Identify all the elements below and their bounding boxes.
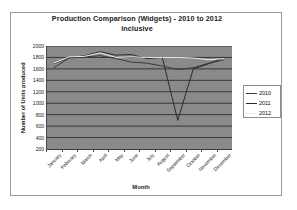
chart-title-line-1: Production Comparison (Widgets) - 2010 t… xyxy=(28,14,246,24)
legend-label: 2011 xyxy=(259,100,271,106)
y-axis-tick: 200 xyxy=(36,146,44,152)
chart-title-line-2: inclusive xyxy=(28,24,246,34)
x-axis-label-july: July xyxy=(145,152,155,162)
y-axis-tick: 1800 xyxy=(33,54,44,60)
y-axis-tick: 1600 xyxy=(33,66,44,72)
chart-screenshot: Production Comparison (Widgets) - 2010 t… xyxy=(0,0,297,210)
legend-label: 2010 xyxy=(259,90,271,96)
y-axis-tick: 800 xyxy=(36,112,44,118)
x-axis-label-may: May xyxy=(113,152,124,163)
chart-legend: 201020112012 xyxy=(243,85,281,118)
series-line-2011 xyxy=(54,52,225,121)
chart-title: Production Comparison (Widgets) - 2010 t… xyxy=(28,14,246,33)
y-axis-tick: 1000 xyxy=(33,100,44,106)
y-axis-tick: 2000 xyxy=(33,43,44,49)
x-axis-label-june: June xyxy=(128,152,140,164)
legend-label: 2012 xyxy=(259,110,271,116)
legend-item-2010[interactable]: 2010 xyxy=(246,88,278,98)
legend-swatch-icon xyxy=(246,103,257,104)
x-axis-label-february: February xyxy=(59,152,77,170)
legend-swatch-icon xyxy=(246,113,257,114)
y-axis-tick: 1400 xyxy=(33,77,44,83)
x-axis-tick-labels: JanuaryFebruaryMarchAprilMayJuneJulyAugu… xyxy=(46,152,232,186)
series-line-2012 xyxy=(54,53,225,63)
legend-swatch-icon xyxy=(246,93,257,94)
y-axis-tick-labels: 200018001600140012001000800600400200 xyxy=(24,42,46,152)
legend-item-2011[interactable]: 2011 xyxy=(246,98,278,108)
y-axis-tick: 600 xyxy=(36,123,44,129)
x-axis-label-march: March xyxy=(79,152,93,166)
x-axis-label-april: April xyxy=(97,152,108,163)
y-axis-tick: 1200 xyxy=(33,89,44,95)
series-lines xyxy=(46,46,232,149)
legend-item-2012[interactable]: 2012 xyxy=(246,108,278,118)
x-axis-title: Month xyxy=(96,184,186,190)
plot-area-wrapper xyxy=(46,46,232,149)
y-axis-tick: 400 xyxy=(36,135,44,141)
